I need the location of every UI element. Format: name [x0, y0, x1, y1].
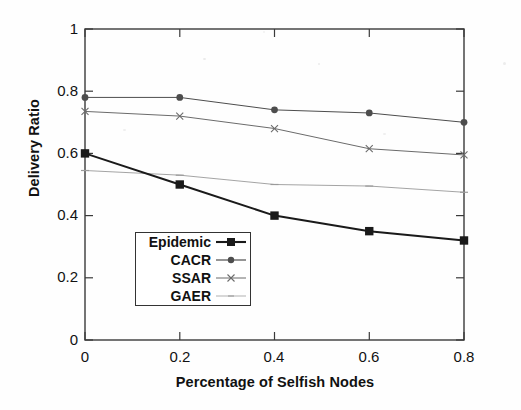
y-axis-title: Delivery Ratio [26, 78, 42, 218]
legend-marker-filled-circle-icon [216, 253, 246, 267]
chart-figure: 1 0.8 0.6 0.4 0.2 0 0 0.2 0.4 0.6 0.8 Pe… [0, 0, 521, 410]
x-tick-label-0-2: 0.2 [155, 348, 205, 365]
series-epidemic [81, 149, 468, 244]
x-tick-label-0: 0 [60, 348, 110, 365]
y-tick-label-0-2: 0.2 [34, 268, 78, 285]
legend-marker-faint-tick-icon [216, 289, 246, 303]
x-tick-label-0-6: 0.6 [344, 348, 394, 365]
legend-item-epidemic: Epidemic [136, 233, 250, 251]
legend-marker-x-cross-icon [216, 271, 246, 285]
legend-item-cacr: CACR [136, 251, 250, 269]
legend-label-cacr: CACR [171, 252, 211, 268]
series-ssar [82, 108, 468, 159]
legend-label-gaer: GAER [171, 288, 211, 304]
x-axis-title: Percentage of Selfish Nodes [85, 374, 465, 390]
legend-item-ssar: SSAR [136, 269, 250, 287]
y-tick-label-1: 1 [34, 20, 78, 37]
y-tick-label-0: 0 [34, 331, 78, 348]
legend-item-gaer: GAER [136, 287, 250, 305]
series-gaer [81, 171, 468, 193]
legend-marker-filled-square-icon [216, 235, 246, 249]
legend-label-ssar: SSAR [172, 270, 211, 286]
chart-legend: Epidemic CACR SSAR [135, 232, 251, 306]
legend-label-epidemic: Epidemic [149, 234, 211, 250]
x-tick-label-0-4: 0.4 [249, 348, 299, 365]
series-cacr [82, 94, 468, 126]
x-tick-label-0-8: 0.8 [439, 348, 489, 365]
